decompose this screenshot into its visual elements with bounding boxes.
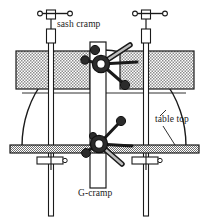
upper-g-cramp-hub-bore (97, 60, 105, 68)
lower-g-cramp-knob-upper[interactable] (116, 116, 125, 125)
label-sash-cramp: sash cramp (57, 19, 101, 29)
lower-g-cramp-hub-bore (95, 140, 103, 148)
left-sash-cramp-stop-pin (63, 158, 67, 162)
technical-illustration: sash cramp G-cramp table top (0, 0, 209, 223)
right-sash-cramp-tommy-bar-end-right (163, 11, 168, 16)
label-g-cramp: G-cramp (78, 188, 113, 198)
right-packing-block (120, 51, 194, 89)
upper-g-cramp-knob-lower[interactable] (120, 80, 129, 89)
left-sash-cramp-tommy-bar-end-left (38, 11, 43, 16)
upper-g-cramp-shoe-top (90, 45, 99, 54)
label-table-top: table top (155, 114, 189, 124)
left-sash-cramp-handle-boss[interactable] (47, 10, 56, 19)
upper-g-cramp-shoe-left (81, 56, 89, 64)
left-sash-cramp-tommy-bar-end-right (68, 11, 73, 16)
illustration-canvas: sash cramp G-cramp table top (0, 0, 209, 223)
lower-g-cramp-shoe-left (82, 149, 91, 158)
right-sash-cramp-tommy-bar-end-left (133, 11, 138, 16)
right-sash-cramp-handle-boss[interactable] (142, 10, 151, 19)
left-sash-cramp-collar (47, 29, 56, 43)
left-sash-cramp-sliding-stop[interactable] (37, 157, 63, 164)
right-sash-cramp-collar (142, 29, 151, 43)
right-sash-cramp-stop-pin (158, 158, 162, 162)
left-sash-cramp-bar (49, 40, 54, 216)
right-sash-cramp-sliding-stop[interactable] (132, 157, 158, 164)
right-sash-cramp-bar (144, 40, 149, 216)
